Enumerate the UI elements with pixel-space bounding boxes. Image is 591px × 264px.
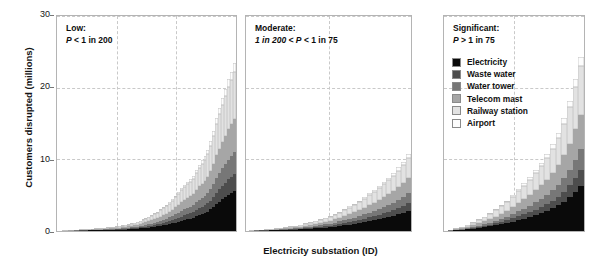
legend-item: Water tower: [452, 80, 528, 92]
bar-segment: [578, 170, 584, 186]
bar: [578, 16, 584, 231]
y-tick-label: 30: [24, 10, 50, 19]
y-tick-label: 10: [24, 155, 50, 164]
legend-swatch-icon: [452, 82, 461, 91]
legend-swatch-icon: [452, 58, 461, 67]
bar-segment: [406, 158, 411, 178]
bar-segment: [578, 66, 584, 115]
bar-segment: [406, 193, 411, 203]
legend-label: Electricity: [467, 57, 507, 67]
legend-label: Water tower: [467, 81, 515, 91]
bar-segment: [578, 186, 584, 231]
legend-item: Airport: [452, 117, 528, 129]
legend-label: Railway station: [467, 106, 528, 116]
bar-segment: [233, 174, 236, 191]
legend-swatch-icon: [452, 70, 461, 79]
legend-item: Waste water: [452, 68, 528, 80]
y-tick-label: 0: [24, 227, 50, 236]
legend-label: Waste water: [467, 69, 516, 79]
legend-label: Airport: [467, 118, 495, 128]
legend-swatch-icon: [452, 94, 461, 103]
legend-swatch-icon: [452, 119, 461, 128]
legend-label: Telecom mast: [467, 94, 522, 104]
bar: [406, 16, 411, 231]
x-axis-label: Electricity substation (ID): [56, 245, 585, 256]
panel-low: Low: P < 1 in 200: [56, 15, 237, 232]
bar-segment: [233, 191, 236, 231]
panel-title-moderate: Moderate: 1 in 200 < P < 1 in 75: [255, 22, 338, 46]
bar-segment: [233, 119, 236, 153]
bar-segment: [578, 115, 584, 150]
legend-item: Railway station: [452, 105, 528, 117]
panel-title-low: Low: P < 1 in 200: [66, 22, 113, 46]
bar-group-moderate: [246, 16, 411, 231]
legend-item: Electricity: [452, 56, 528, 68]
legend-swatch-icon: [452, 106, 461, 115]
bar-segment: [406, 211, 411, 231]
bar-group-low: [57, 16, 236, 231]
bar-segment: [406, 203, 411, 211]
bar-segment: [406, 178, 411, 193]
bar-segment: [578, 57, 584, 66]
bar-segment: [233, 72, 236, 119]
panel-title-significant: Significant: P > 1 in 75: [453, 22, 499, 46]
panel-moderate: Moderate: 1 in 200 < P < 1 in 75: [245, 15, 412, 232]
plot-area-moderate: [246, 16, 411, 231]
chart-legend: ElectricityWaste waterWater towerTelecom…: [452, 56, 528, 129]
bar-segment: [578, 149, 584, 170]
y-tick-label: 20: [24, 82, 50, 91]
bar: [233, 16, 236, 231]
plot-area-low: [57, 16, 236, 231]
bar-segment: [233, 63, 236, 71]
y-axis-ticks: 0102030: [22, 0, 50, 264]
legend-item: Telecom mast: [452, 93, 528, 105]
chart-figure: Customers disrupted (millions) Electrici…: [0, 0, 591, 264]
bar-segment: [233, 152, 236, 174]
